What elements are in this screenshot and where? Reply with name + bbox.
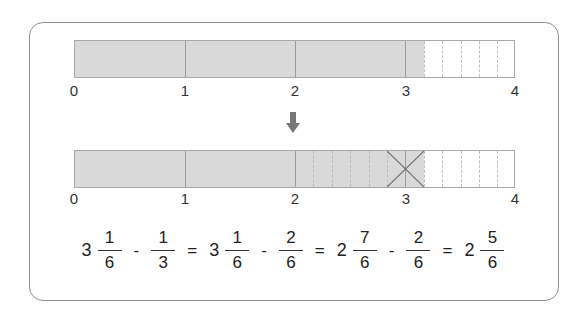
- tick-label: 2: [291, 190, 299, 207]
- sixth-divider: [497, 41, 498, 77]
- number-bar-bottom: [74, 150, 515, 188]
- operator: -: [261, 241, 267, 261]
- fraction: 7 6: [353, 228, 377, 273]
- fraction-bar: [480, 250, 504, 251]
- number-bar-top: [74, 40, 515, 78]
- sixth-divider: [332, 151, 333, 187]
- fraction: 2 6: [406, 228, 430, 273]
- unit-divider: [295, 151, 296, 187]
- tick-label: 4: [511, 82, 519, 99]
- sixth-divider: [497, 151, 498, 187]
- tick-label: 3: [402, 190, 410, 207]
- down-arrow-icon: [286, 112, 300, 134]
- denominator: 6: [282, 253, 299, 273]
- operator: =: [315, 241, 325, 261]
- sixth-divider: [424, 151, 425, 187]
- numerator: 2: [282, 228, 299, 248]
- denominator: 3: [155, 253, 172, 273]
- sixth-divider: [369, 151, 370, 187]
- tick-label: 2: [291, 82, 299, 99]
- sixth-divider: [350, 151, 351, 187]
- whole-number: 3: [209, 240, 219, 261]
- fraction-bar: [98, 250, 122, 251]
- denominator: 6: [410, 253, 427, 273]
- unit-divider: [185, 41, 186, 77]
- fraction-bar: [151, 250, 175, 251]
- denominator: 6: [228, 253, 245, 273]
- unit-divider: [405, 41, 406, 77]
- numerator: 7: [356, 228, 373, 248]
- fraction-bar: [353, 250, 377, 251]
- sixth-divider: [424, 41, 425, 77]
- shaded-region: [75, 151, 424, 187]
- operator: =: [187, 241, 197, 261]
- operator: =: [442, 241, 452, 261]
- fraction: 1 3: [151, 228, 175, 273]
- fraction-bar: [279, 250, 303, 251]
- unit-divider: [295, 41, 296, 77]
- denominator: 6: [101, 253, 118, 273]
- fraction: 1 6: [225, 228, 249, 273]
- numerator: 1: [228, 228, 245, 248]
- sixth-divider: [479, 151, 480, 187]
- fraction: 2 6: [279, 228, 303, 273]
- whole-number: 3: [82, 240, 92, 261]
- whole-number: 2: [337, 240, 347, 261]
- tick-label: 0: [70, 190, 78, 207]
- fraction-bar: [406, 250, 430, 251]
- fraction: 1 6: [98, 228, 122, 273]
- tick-label: 1: [181, 190, 189, 207]
- sixth-divider: [461, 151, 462, 187]
- equation: 3 1 6 - 1 3 = 3 1 6 - 2 6 = 2 7 6 - 2 6 …: [0, 228, 586, 273]
- numerator: 1: [155, 228, 172, 248]
- sixth-divider: [442, 151, 443, 187]
- tick-label: 3: [402, 82, 410, 99]
- sixth-divider: [461, 41, 462, 77]
- whole-number: 2: [464, 240, 474, 261]
- shaded-region: [75, 41, 424, 77]
- tick-label: 1: [181, 82, 189, 99]
- sixth-divider: [442, 41, 443, 77]
- sixth-divider: [313, 151, 314, 187]
- numerator: 1: [101, 228, 118, 248]
- tick-label: 0: [70, 82, 78, 99]
- fraction: 5 6: [480, 228, 504, 273]
- sixth-divider: [479, 41, 480, 77]
- numerator: 2: [410, 228, 427, 248]
- unit-divider: [185, 151, 186, 187]
- operator: -: [389, 241, 395, 261]
- numerator: 5: [484, 228, 501, 248]
- cross-out-mark: [387, 151, 424, 187]
- denominator: 6: [356, 253, 373, 273]
- denominator: 6: [484, 253, 501, 273]
- operator: -: [134, 241, 140, 261]
- fraction-bar: [225, 250, 249, 251]
- tick-label: 4: [511, 190, 519, 207]
